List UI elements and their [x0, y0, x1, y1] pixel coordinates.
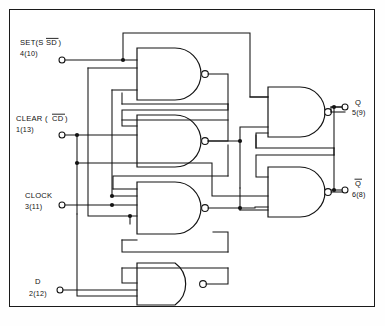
gate-g4-nand [137, 263, 206, 305]
junction-clear-1 [75, 133, 79, 137]
wire-qbar-into-g5 [256, 133, 268, 148]
label-qbar-pins: 6(8) [352, 190, 366, 199]
gate-g6-nand [268, 167, 331, 217]
label-set-pins: 4(10) [20, 49, 38, 58]
label-qbar: Q 6(8) [352, 179, 366, 199]
gate-g5-nand [268, 87, 331, 137]
label-set-text: SET(S [20, 38, 44, 47]
wire-g4-out [206, 268, 228, 284]
input-terminal-set[interactable] [59, 57, 65, 63]
label-clock-text: CLOCK [25, 191, 52, 200]
wire-g4-in-top [122, 268, 137, 283]
label-clock: CLOCK 3(11) [25, 191, 52, 211]
junction-rail-b [110, 194, 114, 198]
wire-g1-rail [112, 90, 137, 196]
label-qbar-text: Q [355, 179, 361, 188]
wire-lower-ret-a [213, 232, 228, 252]
label-set-signal: SD [46, 38, 57, 47]
label-clear-pins: 1(13) [16, 125, 34, 134]
input-terminal-d[interactable] [57, 287, 63, 293]
input-terminal-clear[interactable] [59, 132, 65, 138]
label-clock-pins: 3(11) [25, 202, 42, 211]
wire-clear-to-g4 [77, 214, 137, 296]
logic-diagram-canvas: SET(S SD ) 4(10) CLEAR ( CD ) 1(13) CLOC… [0, 0, 385, 326]
label-set-tail: ) [59, 38, 62, 47]
figure-sheet: SET(S SD ) 4(10) CLEAR ( CD ) 1(13) CLOC… [0, 0, 385, 326]
gate-g2-nand [137, 115, 208, 167]
figure-caption [10, 314, 310, 325]
junction-clock [110, 203, 114, 207]
label-clear: CLEAR ( CD ) 1(13) [16, 114, 68, 134]
label-d-pins: 2(12) [29, 289, 47, 298]
label-clear-tail: ) [65, 114, 68, 123]
input-terminal-clock[interactable] [59, 202, 65, 208]
label-d-text: D [35, 277, 41, 286]
wire-g2-to-g5 [208, 127, 268, 141]
label-clear-text: CLEAR ( [16, 114, 48, 123]
output-terminal-qbar[interactable] [342, 187, 348, 193]
output-terminal-q[interactable] [342, 104, 348, 110]
wire-g3-to-g6 [240, 207, 268, 208]
label-clear-signal: CD [52, 114, 64, 123]
label-q-text: Q [355, 98, 361, 107]
gate-g3-nand [137, 182, 208, 234]
gate-g1-nand [137, 48, 208, 100]
junction-clock-2 [128, 214, 132, 218]
label-set: SET(S SD ) 4(10) [20, 38, 62, 58]
label-d: D 2(12) [29, 277, 47, 298]
junction-set [121, 58, 125, 62]
wire-cross-lower-1 [122, 240, 228, 252]
label-q: Q 5(9) [352, 98, 366, 117]
label-q-pins: 5(9) [352, 108, 366, 117]
